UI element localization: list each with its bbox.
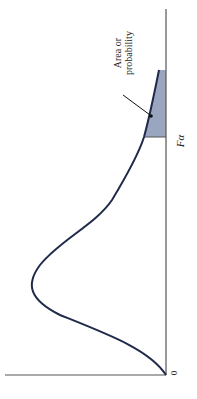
- tick-label-zero: 0: [169, 371, 179, 376]
- annotation-label: Area or probability: [112, 31, 134, 75]
- annotation-line-2: probability: [123, 31, 134, 75]
- chart-canvas: [0, 0, 197, 399]
- f-distribution-chart: Area or probability 0 Fα: [0, 0, 197, 399]
- density-curve: [32, 70, 166, 375]
- annotation-line-1: Area or: [112, 31, 123, 75]
- tick-label-f-alpha: Fα: [174, 135, 186, 148]
- arrow-head: [149, 114, 153, 118]
- annotation-arrow: [123, 95, 150, 115]
